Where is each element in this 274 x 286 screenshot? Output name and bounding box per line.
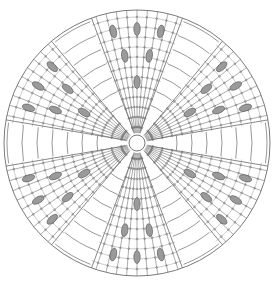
- bobble-stitch: [109, 24, 118, 38]
- bobble-stitch: [134, 251, 140, 264]
- bobble-stitch: [199, 82, 213, 95]
- bobble-stitch: [77, 167, 91, 179]
- bobble-stitch: [109, 247, 118, 261]
- bobble-stitch: [121, 49, 129, 63]
- chain-panel: [140, 18, 222, 134]
- stitch-wedge: [92, 153, 182, 276]
- stitch-wedge: [144, 44, 267, 141]
- bobble-stitch: [145, 49, 153, 63]
- bobble-stitch: [45, 213, 59, 226]
- chain-panel: [140, 152, 222, 268]
- bobble-stitch: [156, 24, 165, 38]
- center-ring: [129, 135, 145, 151]
- bobble-stitch: [121, 223, 129, 237]
- bobble-stitch: [45, 60, 59, 73]
- bobble-stitch: [61, 82, 75, 95]
- stitch-wedge: [144, 145, 267, 242]
- chain-panel: [149, 120, 268, 166]
- stitch-wedge: [7, 145, 130, 242]
- stitch-wedge: [92, 10, 182, 133]
- bobble-stitch: [238, 103, 252, 113]
- bobble-stitch: [21, 173, 35, 183]
- bobble-stitch: [61, 191, 75, 204]
- bobble-stitch: [156, 247, 165, 261]
- bobble-stitch: [145, 223, 153, 237]
- bobble-stitch: [215, 60, 229, 73]
- bobble-stitch: [238, 173, 252, 183]
- bobble-stitch: [199, 191, 213, 204]
- chain-panel: [6, 120, 125, 166]
- stitch-wedge: [7, 44, 130, 141]
- bobble-stitch: [77, 106, 91, 118]
- bobble-stitch: [183, 167, 197, 179]
- bobble-stitch: [21, 103, 35, 113]
- chain-panel: [52, 152, 134, 268]
- bobble-stitch: [134, 23, 140, 36]
- crochet-chart: [0, 0, 274, 286]
- chain-panel: [52, 18, 134, 134]
- bobble-stitch: [134, 198, 140, 211]
- bobble-stitch: [215, 213, 229, 226]
- bobble-stitch: [183, 106, 197, 118]
- bobble-stitch: [134, 76, 140, 89]
